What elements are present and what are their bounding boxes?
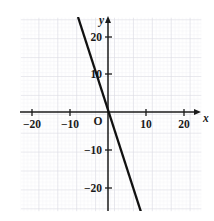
y-tick-label-neg20: −20 (84, 182, 102, 194)
x-tick-label-10: 10 (140, 118, 152, 130)
x-tick-label-neg10: −10 (61, 118, 79, 130)
x-tick-label-20: 20 (178, 118, 190, 130)
y-axis-label: y (97, 14, 105, 27)
grid-background (20, 17, 202, 211)
origin-label: O (94, 115, 103, 127)
x-tick-label-neg20: −20 (23, 118, 41, 130)
x-axis-label: x (202, 112, 209, 124)
y-tick-label-20: 20 (91, 31, 103, 43)
y-tick-label-neg10: −10 (84, 144, 102, 156)
graph-figure: −20 −10 10 20 20 10 −10 −20 O y x (0, 0, 214, 221)
